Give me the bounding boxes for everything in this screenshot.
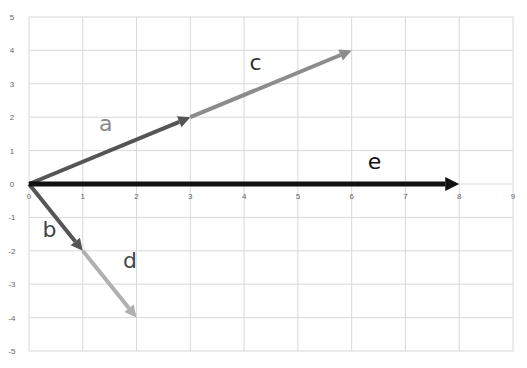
y-tick-label: 5 [10,13,15,22]
y-tick-label: 1 [10,147,15,156]
x-tick-label: 0 [27,192,32,201]
x-tick-label: 9 [511,192,516,201]
vector-c-shaft [190,55,340,117]
vector-label-e: e [368,149,382,174]
y-tick-label: 4 [10,46,15,55]
x-tick-label: 6 [349,192,354,201]
y-tick-label: -3 [8,280,16,289]
y-tick-label: -5 [8,347,16,356]
vector-label-a: a [99,111,112,136]
x-tick-label: 2 [134,192,139,201]
x-tick-label: 3 [188,192,193,201]
x-tick-label: 1 [81,192,86,201]
y-tick-label: -4 [8,314,16,323]
vector-label-c: c [249,50,261,75]
x-tick-label: 5 [296,192,301,201]
x-tick-label: 4 [242,192,247,201]
vector-d-shaft [83,251,129,308]
y-tick-label: -2 [8,247,16,256]
y-tick-label: 2 [10,113,15,122]
y-axis-ticks: 543210-1-2-3-4-5 [8,13,16,356]
y-tick-label: -1 [8,213,16,222]
y-tick-label: 0 [10,180,15,189]
x-tick-label: 8 [457,192,462,201]
vector-chart: 0123456789 543210-1-2-3-4-5 acbde [0,0,527,368]
vector-label-b: b [42,217,56,242]
y-tick-label: 3 [10,80,15,89]
x-tick-label: 7 [403,192,408,201]
arrowhead-icon [445,177,459,191]
vector-label-d: d [123,248,137,273]
x-axis-ticks: 0123456789 [27,192,516,201]
